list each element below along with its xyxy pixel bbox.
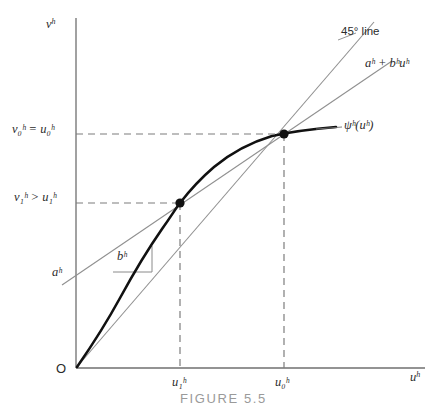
psi-function-label: ψʰ(uʰ) bbox=[344, 119, 373, 132]
x-axis-label: uh bbox=[410, 371, 420, 384]
origin-label: O bbox=[56, 362, 66, 375]
lower-intersection-point bbox=[175, 198, 184, 207]
forty-five-line-label: 45° line bbox=[341, 26, 380, 38]
u0-tick-label: u₀ʰ bbox=[275, 376, 289, 389]
upper-intersection-point bbox=[279, 129, 288, 138]
figure-container: vh uh O v₀ʰ = u₀ʰ v₁ʰ > u₁ʰ u₁ʰ u₀ʰ aʰ b… bbox=[0, 0, 444, 419]
forty-five-degree-line bbox=[76, 22, 374, 368]
v0-equals-u0-label: v₀ʰ = u₀ʰ bbox=[12, 123, 54, 136]
affine-line bbox=[62, 61, 392, 285]
figure-caption: FIGURE 5.5 bbox=[180, 391, 267, 406]
psi-curve bbox=[77, 127, 336, 367]
slope-b-label: bʰ bbox=[117, 250, 127, 263]
v1-greater-u1-label: v₁ʰ > u₁ʰ bbox=[14, 191, 56, 204]
affine-function-label: aʰ + bʰuʰ bbox=[365, 57, 409, 70]
intercept-a-label: aʰ bbox=[52, 266, 62, 279]
u1-tick-label: u₁ʰ bbox=[172, 376, 186, 389]
y-axis-label: vh bbox=[46, 18, 56, 31]
